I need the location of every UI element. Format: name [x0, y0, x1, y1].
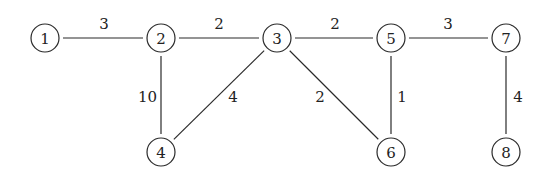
edge-weight-5-7: 3	[443, 15, 453, 33]
edge-weight-1-2: 3	[99, 15, 109, 33]
node-label: 6	[386, 144, 396, 162]
edge-weight-5-6: 1	[397, 88, 407, 106]
node-label: 8	[501, 144, 511, 162]
weighted-graph-diagram: 3223104214 12357468	[0, 0, 554, 179]
node-label: 3	[272, 30, 282, 48]
edge-weight-3-6: 2	[315, 88, 325, 106]
edge-weight-7-8: 4	[513, 88, 523, 106]
node-label: 1	[40, 30, 50, 48]
node-8: 8	[492, 138, 520, 166]
node-4: 4	[147, 138, 175, 166]
edge-weight-3-4: 4	[228, 88, 238, 106]
node-5: 5	[377, 24, 405, 52]
node-6: 6	[377, 138, 405, 166]
node-label: 4	[156, 144, 166, 162]
edge-weight-2-4: 10	[138, 88, 157, 106]
edge-3-4	[174, 51, 264, 140]
node-label: 7	[501, 30, 511, 48]
node-2: 2	[147, 24, 175, 52]
edge-weight-2-3: 2	[214, 15, 224, 33]
node-label: 2	[156, 30, 166, 48]
node-3: 3	[263, 24, 291, 52]
edge-weight-3-5: 2	[330, 15, 340, 33]
node-1: 1	[31, 24, 59, 52]
edge-3-6	[290, 51, 379, 140]
nodes-layer: 12357468	[31, 24, 520, 166]
node-7: 7	[492, 24, 520, 52]
edges-layer	[63, 38, 506, 139]
node-label: 5	[386, 30, 396, 48]
